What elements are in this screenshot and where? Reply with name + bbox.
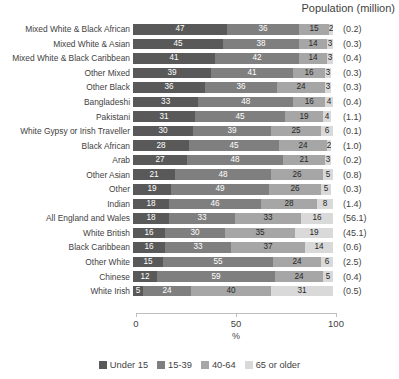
- chart-legend: Under 1515-3940-6465 or older: [0, 360, 399, 370]
- legend-item: 40-64: [201, 360, 236, 370]
- population-age-stacked-bar-chart: Population (million) Mixed White & Black…: [0, 0, 399, 379]
- chart-row: Other1949265(0.3): [0, 182, 399, 197]
- bar-segment: 39: [193, 126, 271, 137]
- chart-row: Other Black3636243(0.3): [0, 80, 399, 95]
- bar-segment: 19: [133, 184, 171, 195]
- population-value: (0.4): [333, 97, 393, 107]
- bar-segment: 35: [225, 228, 295, 239]
- population-value: (1.4): [333, 199, 393, 209]
- stacked-bar: 1949265: [133, 184, 333, 195]
- bar-segment: 49: [171, 184, 269, 195]
- stacked-bar: 1846288: [133, 199, 333, 210]
- x-axis-tick-label: 0: [116, 318, 156, 329]
- bar-segment: 2: [327, 140, 331, 151]
- row-category-label: Other Mixed: [0, 68, 133, 78]
- bar-segment: 26: [269, 184, 321, 195]
- bar-segment: 3: [325, 68, 331, 79]
- bar-segment: 26: [271, 169, 323, 180]
- bar-segment: 28: [261, 199, 317, 210]
- population-value: (0.2): [333, 24, 393, 34]
- bar-segment: 18: [133, 213, 169, 224]
- bar-segment: 45: [133, 39, 223, 50]
- bar-segment: 40: [191, 286, 271, 297]
- x-axis-tick: [236, 313, 237, 317]
- legend-label: 15-39: [168, 360, 192, 370]
- population-value: (0.1): [333, 126, 393, 136]
- population-value: (0.4): [333, 272, 393, 282]
- bar-segment: 30: [165, 228, 225, 239]
- population-column-header: Population (million): [301, 2, 395, 14]
- bar-segment: 36: [227, 24, 299, 35]
- bar-segment: 33: [133, 97, 198, 108]
- bar-segment: 31: [133, 111, 195, 122]
- bar-segment: 6: [321, 126, 333, 137]
- population-value: (2.5): [333, 257, 393, 267]
- x-axis-tick-label: 50: [216, 318, 256, 329]
- bar-segment: 5: [323, 271, 333, 282]
- bar-segment: 19: [285, 111, 323, 122]
- bar-segment: 16: [133, 242, 165, 253]
- bar-segment: 24: [143, 286, 191, 297]
- chart-row: Mixed White & Black Caribbean4142143(0.4…: [0, 51, 399, 66]
- bar-segment: 24: [279, 140, 327, 151]
- legend-swatch-icon: [201, 361, 209, 369]
- legend-label: 65 or older: [256, 360, 300, 370]
- row-category-label: Black Caribbean: [0, 242, 133, 252]
- bar-segment: 38: [223, 39, 299, 50]
- bar-segment: 3: [325, 82, 331, 93]
- chart-row: Indian1846288(1.4): [0, 197, 399, 212]
- bar-segment: 16: [293, 97, 325, 108]
- bar-segment: 24: [275, 271, 323, 282]
- bar-segment: 16: [133, 228, 165, 239]
- chart-row: Arab2748213(0.2): [0, 153, 399, 168]
- chart-row: Mixed White & Black African4736152(0.2): [0, 22, 399, 37]
- bar-segment: 14: [305, 242, 333, 253]
- bar-segment: 4: [325, 97, 333, 108]
- row-category-label: Mixed White & Asian: [0, 39, 133, 49]
- legend-label: 40-64: [212, 360, 236, 370]
- stacked-bar: 16303519: [133, 228, 333, 239]
- row-category-label: Other White: [0, 257, 133, 267]
- bar-segment: 30: [133, 126, 193, 137]
- population-value: (0.6): [333, 242, 393, 252]
- population-value: (0.5): [333, 286, 393, 296]
- bar-segment: 5: [321, 184, 331, 195]
- bar-segment: 5: [323, 169, 333, 180]
- bar-segment: 59: [157, 271, 275, 282]
- bar-segment: 33: [169, 213, 235, 224]
- row-category-label: Indian: [0, 199, 133, 209]
- x-axis-tick-label: 100: [316, 318, 356, 329]
- bar-segment: 48: [187, 155, 283, 166]
- population-value: (0.8): [333, 170, 393, 180]
- row-category-label: White Gypsy or Irish Traveller: [0, 126, 133, 136]
- bar-segment: 37: [231, 242, 305, 253]
- stacked-bar: 3039256: [133, 126, 333, 137]
- chart-row: White British16303519(45.1): [0, 226, 399, 241]
- stacked-bar: 18333316: [133, 213, 333, 224]
- bar-segment: 47: [133, 24, 227, 35]
- bar-segment: 3: [327, 39, 333, 50]
- bar-segment: 21: [133, 169, 175, 180]
- stacked-bar: 2748213: [133, 155, 333, 166]
- bar-segment: 18: [133, 199, 169, 210]
- legend-item: Under 15: [99, 360, 148, 370]
- bar-segment: 42: [215, 53, 299, 64]
- bar-segment: 15: [133, 257, 163, 268]
- chart-row: Mixed White & Asian4538143(0.3): [0, 37, 399, 52]
- row-category-label: Other Black: [0, 82, 133, 92]
- legend-item: 15-39: [157, 360, 192, 370]
- chart-row: Pakistani3145194(1.1): [0, 109, 399, 124]
- population-value: (0.3): [333, 68, 393, 78]
- population-value: (0.3): [333, 82, 393, 92]
- bar-segment: 16: [293, 68, 325, 79]
- bar-segment: 24: [273, 257, 321, 268]
- bar-segment: 15: [299, 24, 329, 35]
- population-value: (1.0): [333, 141, 393, 151]
- chart-row: Other Asian2148265(0.8): [0, 167, 399, 182]
- bar-segment: 25: [271, 126, 321, 137]
- bar-segment: 36: [205, 82, 277, 93]
- stacked-bar: 4142143: [133, 53, 333, 64]
- chart-row: Bangladeshi3348164(0.4): [0, 95, 399, 110]
- chart-row: Other White1555246(2.5): [0, 255, 399, 270]
- row-category-label: White British: [0, 228, 133, 238]
